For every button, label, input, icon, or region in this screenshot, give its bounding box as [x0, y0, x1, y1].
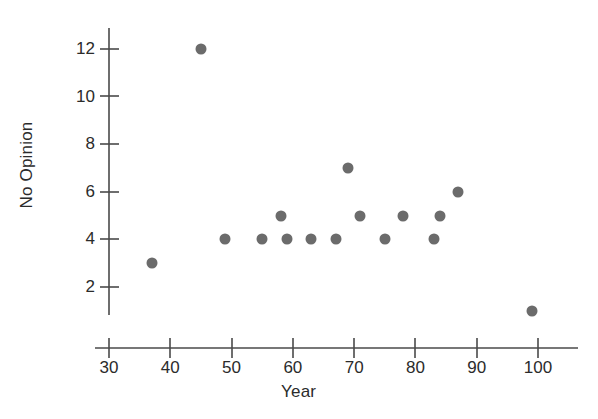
x-tick-label: 60	[283, 358, 302, 378]
data-point	[379, 234, 390, 245]
x-tick-label: 80	[406, 358, 425, 378]
y-tick-label: 6	[86, 182, 95, 202]
x-tick-label: 40	[161, 358, 180, 378]
data-point	[275, 210, 286, 221]
data-point	[330, 234, 341, 245]
x-tick-label: 70	[345, 358, 364, 378]
data-point	[526, 305, 537, 316]
data-point	[195, 44, 206, 55]
x-tick-label: 90	[467, 358, 486, 378]
y-tick-label: 10	[76, 87, 95, 107]
y-axis-title: No Opinion	[17, 105, 37, 225]
x-axis-title: Year	[281, 382, 316, 402]
y-tick-label: 8	[86, 134, 95, 154]
x-tick-label: 100	[524, 358, 552, 378]
data-point	[257, 234, 268, 245]
data-point	[453, 186, 464, 197]
data-point	[398, 210, 409, 221]
x-tick-label: 30	[100, 358, 119, 378]
y-tick-label: 12	[76, 39, 95, 59]
x-tick-label: 50	[222, 358, 241, 378]
axis-lines	[0, 0, 598, 419]
y-tick-label: 2	[86, 277, 95, 297]
y-tick-label: 4	[86, 229, 95, 249]
scatter-plot: No Opinion Year 12108642 304050607080901…	[0, 0, 598, 419]
data-point	[146, 258, 157, 269]
data-point	[281, 234, 292, 245]
data-point	[428, 234, 439, 245]
data-point	[343, 163, 354, 174]
data-point	[355, 210, 366, 221]
data-point	[220, 234, 231, 245]
data-point	[434, 210, 445, 221]
data-point	[306, 234, 317, 245]
